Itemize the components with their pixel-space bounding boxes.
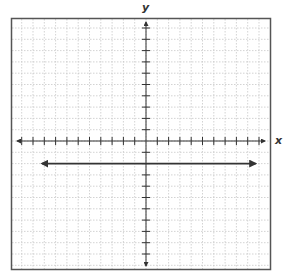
plot-frame xyxy=(12,19,271,270)
x-axis-label: x xyxy=(275,134,282,147)
grid-lines xyxy=(12,19,270,269)
axes xyxy=(17,22,265,266)
coordinate-plane xyxy=(0,0,284,276)
y-axis-label: y xyxy=(142,1,149,14)
